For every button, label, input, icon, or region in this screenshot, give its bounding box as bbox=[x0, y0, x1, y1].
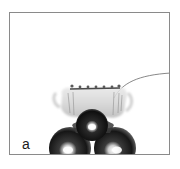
photo-illustration bbox=[10, 13, 170, 155]
panel-label: a bbox=[22, 137, 30, 151]
figure-panel-a: a bbox=[9, 12, 170, 155]
crown-rim bbox=[70, 84, 121, 89]
